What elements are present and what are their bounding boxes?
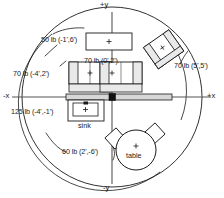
axis-label-minus-x: -x <box>3 92 9 100</box>
axis-label-minus-y: -y <box>103 184 109 192</box>
leader-50lb-tick <box>45 45 57 56</box>
object-60lb-table-group <box>105 123 165 170</box>
load-label-60lb: 60 lb (2',-6') <box>62 148 98 155</box>
leader-50lb <box>53 28 84 34</box>
beam <box>66 94 172 100</box>
object-125lb-sink <box>68 100 104 121</box>
origin-marker <box>109 94 116 101</box>
load-label-70lb-right: 70 lb (5',5') <box>174 62 208 69</box>
object-50lb-rect <box>86 33 132 50</box>
axis-label-plus-y: +y <box>100 1 108 9</box>
diagram-canvas: +y -y -x +x 50 lb (-1',6') 70 lb (0',2')… <box>0 0 224 198</box>
table-circle <box>116 130 156 170</box>
object-label-sink: sink <box>78 122 91 129</box>
axis-label-plus-x: +x <box>207 92 215 100</box>
load-label-125lb: 125 lb (-4',-1') <box>11 108 53 115</box>
inner-boundary-arc-right <box>174 47 186 120</box>
load-label-70lb-left: 70 lb (-4',2') <box>13 70 49 77</box>
load-label-50lb: 50 lb (-1',6') <box>41 36 77 43</box>
leader-70lb-left <box>60 61 66 66</box>
object-70lb-center-sofa <box>100 62 142 92</box>
load-label-70lb-center: 70 lb (0',2') <box>84 57 118 64</box>
floor-plan-svg <box>0 0 224 198</box>
object-label-table: table <box>126 152 142 159</box>
